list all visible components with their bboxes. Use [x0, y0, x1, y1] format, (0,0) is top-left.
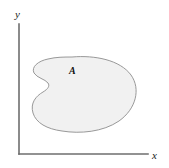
figure-container: y x A: [0, 0, 169, 168]
region-a-label: A: [69, 66, 76, 76]
y-axis-label: y: [15, 9, 20, 20]
figure-canvas: [0, 0, 169, 168]
x-axis-label: x: [152, 150, 157, 161]
region-a-shape: [32, 57, 136, 133]
